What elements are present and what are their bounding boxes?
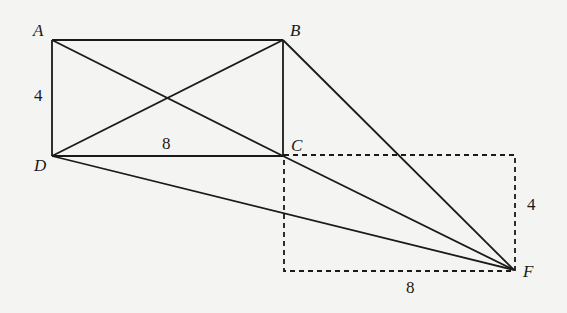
geometry-diagram [0, 0, 567, 313]
measure-ad: 4 [34, 87, 43, 104]
measure-dashed-width: 8 [406, 279, 415, 296]
point-label-a: A [33, 22, 43, 39]
segment-bf [283, 40, 514, 270]
point-label-f: F [523, 263, 533, 280]
point-label-b: B [290, 22, 300, 39]
segment-df [52, 156, 514, 270]
point-label-c: C [291, 137, 302, 154]
segment-cf [283, 156, 514, 270]
measure-dashed-height: 4 [527, 196, 536, 213]
point-label-d: D [34, 157, 46, 174]
measure-dc: 8 [162, 135, 171, 152]
